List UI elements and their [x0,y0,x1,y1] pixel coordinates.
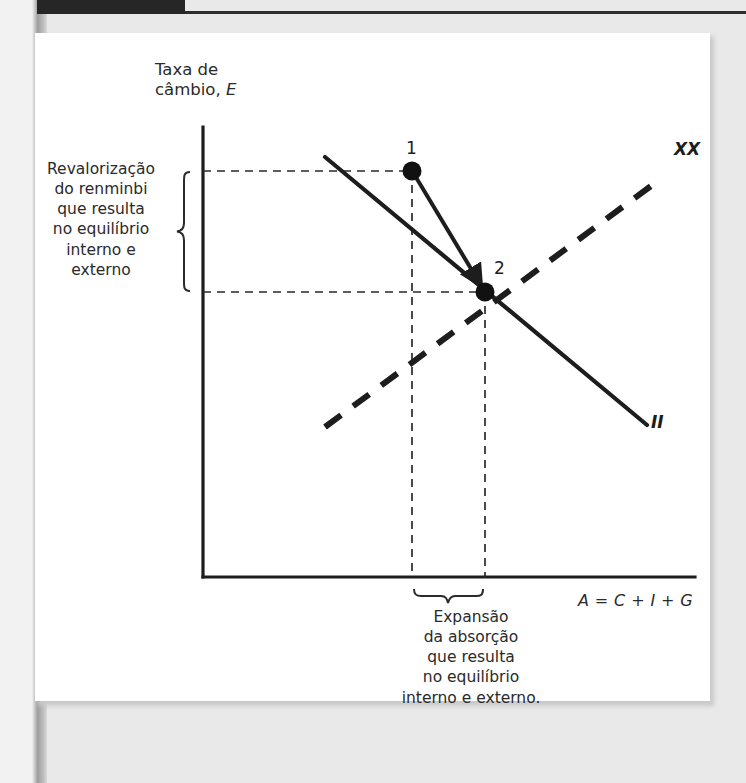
left-annotation-line-4: no equilíbrio [53,220,149,238]
y-axis-label-line2: câmbio, [155,80,226,99]
bottom-annotation-line-2: da absorção [424,628,519,646]
header-rule-line [185,11,746,14]
left-annotation-line-6: externo [71,261,130,279]
guide-lines [203,171,485,577]
bottom-brace [414,589,483,603]
bottom-annotation-line-5: interno e externo. [402,689,541,707]
y-axis-label: Taxa decâmbio, E [155,60,236,100]
curve-label-ii: II [651,412,664,432]
curve-label-xx: XX [674,139,700,159]
left-annotation-line-3: que resulta [57,200,144,218]
left-annotation-line-1: Revalorização [47,160,155,178]
point-1-marker [403,162,422,181]
adjustment-arrow [414,174,482,287]
point-1-label: 1 [406,138,417,158]
left-annotation: Revalorizaçãodo renminbique resultano eq… [28,159,174,280]
left-annotation-line-5: interno e [66,241,136,259]
left-brace [177,172,190,291]
bottom-annotation-line-3: que resulta [427,648,514,666]
point-2-label: 2 [494,258,505,278]
bottom-annotation: Expansãoda absorçãoque resultano equilíb… [376,607,566,708]
left-annotation-line-2: do renminbi [54,180,147,198]
bottom-annotation-line-1: Expansão [433,608,508,626]
axis-lines [203,127,695,577]
bottom-annotation-line-4: no equilíbrio [423,668,519,686]
point-2-marker [476,283,495,302]
x-axis-label: A = C + I + G [578,591,693,611]
header-black-bar [37,0,185,14]
scanned-page-background: Taxa decâmbio, E Revalorizaçãodo renminb… [0,0,746,783]
y-axis-variable: E [226,80,236,99]
y-axis-label-line1: Taxa de [155,60,218,79]
